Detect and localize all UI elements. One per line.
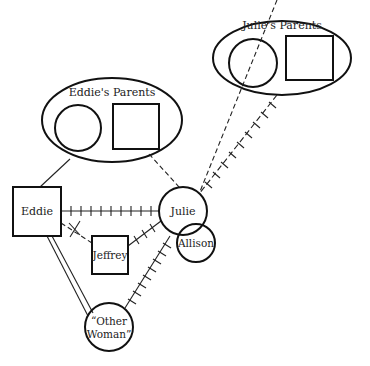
node-allison: Allison [177, 224, 215, 262]
allison-label: Allison [177, 237, 214, 249]
edge-eddie-jeffrey [61, 221, 92, 243]
other-woman-circle [85, 303, 133, 351]
julies-mother-circle [229, 39, 277, 87]
edge-eddies-parents-julie [149, 154, 180, 188]
julies-parents-ellipse [213, 21, 351, 95]
node-jeffrey: Jeffrey [91, 236, 128, 274]
julies-father-square [286, 36, 333, 80]
eddies-father-square [113, 104, 159, 149]
julies-parents-label: Julie's Parents [241, 19, 322, 32]
other-woman-label-line1: “Other [91, 315, 128, 327]
other-woman-label-line2: Woman” [87, 328, 132, 340]
eddies-parents-group: Eddie's Parents [42, 78, 182, 162]
edge-eddies-parents-eddie [40, 159, 70, 187]
eddies-mother-circle [55, 105, 101, 151]
node-julie: Julie [159, 187, 207, 235]
julies-parents-group: Julie's Parents [213, 19, 351, 95]
node-eddie: Eddie [13, 187, 61, 236]
eddies-parents-label: Eddie's Parents [69, 86, 156, 99]
julie-label: Julie [169, 205, 195, 218]
genogram-diagram: Eddie's Parents Julie's Parents [0, 0, 370, 366]
edge-julie-other-woman [125, 236, 171, 308]
edge-julie-jeffrey [128, 221, 161, 246]
edge-eddie-julie [61, 206, 159, 216]
edge-eddie-other-woman [47, 236, 93, 316]
jeffrey-label: Jeffrey [91, 249, 127, 261]
eddie-label: Eddie [21, 205, 53, 218]
node-other-woman: “Other Woman” [85, 303, 133, 351]
